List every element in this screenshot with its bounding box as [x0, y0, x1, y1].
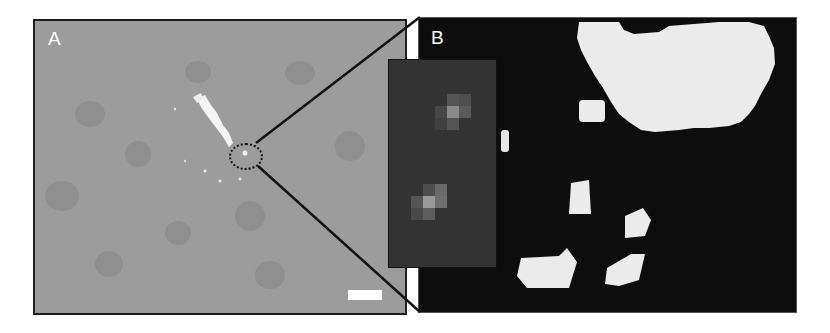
zoom-inset	[388, 59, 497, 268]
pixel	[423, 208, 435, 220]
pixel	[435, 106, 447, 118]
pixel	[411, 196, 423, 208]
region-of-interest-circle	[229, 143, 263, 170]
pixel	[435, 184, 447, 196]
panel-label-b: B	[431, 27, 444, 49]
pixel	[435, 196, 447, 208]
pixel	[423, 184, 435, 196]
bright-feature	[35, 21, 407, 315]
pixel	[435, 118, 447, 130]
pixel	[447, 94, 459, 106]
pixel	[459, 106, 471, 118]
scale-bar	[348, 290, 382, 300]
panel-label-a: A	[48, 28, 61, 50]
pixel	[447, 118, 459, 130]
pixel	[423, 196, 435, 208]
pixel	[411, 208, 423, 220]
pixel	[447, 106, 459, 118]
pixel	[459, 94, 471, 106]
panel-a: A	[33, 19, 407, 315]
